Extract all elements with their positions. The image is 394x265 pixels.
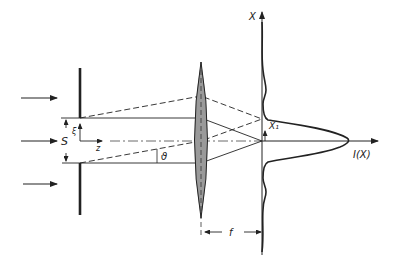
- xi-label: ξ: [71, 127, 77, 136]
- intensity-label: I(X): [353, 149, 371, 160]
- diffraction-diagram: S ξ z ϑ f X I(X) X₁: [0, 0, 394, 265]
- undiffracted-rays: [80, 118, 262, 163]
- diffracted-rays: [80, 96, 262, 163]
- first-min-label: X₁: [268, 121, 279, 131]
- slit-coordinate-axes: [80, 124, 102, 141]
- z-label: z: [95, 144, 101, 153]
- incident-wave-arrows: [21, 98, 57, 184]
- slit-width-label: S: [61, 135, 68, 148]
- intensity-curve: [262, 22, 349, 252]
- theta-label: ϑ: [161, 151, 167, 162]
- focal-length-label: f: [229, 227, 234, 238]
- x-axis-label: X: [248, 11, 257, 22]
